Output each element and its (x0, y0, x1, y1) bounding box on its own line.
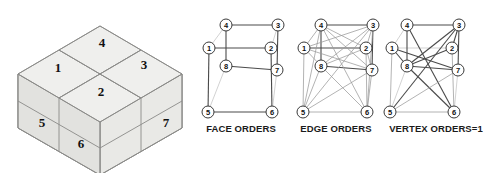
graph-node-4[interactable]: 4 (315, 19, 327, 31)
graph-edge (321, 66, 372, 70)
graph-edge (208, 48, 209, 112)
graph-edge (407, 25, 454, 112)
graph-edge (407, 48, 452, 66)
graph-node-2[interactable]: 2 (446, 42, 458, 54)
graph-node-8[interactable]: 8 (401, 60, 413, 72)
graph-node-6[interactable]: 6 (266, 106, 278, 118)
graph-edge (390, 48, 392, 112)
graph-node-6[interactable]: 6 (361, 106, 373, 118)
face-orders-graph-caption: FACE ORDERS (206, 123, 276, 134)
vertex-orders-graph-edges (390, 25, 459, 112)
graph-edge (407, 66, 454, 112)
node-label: 8 (224, 62, 228, 71)
node-label: 3 (276, 21, 280, 30)
block-label-5: 5 (39, 115, 46, 130)
graph-node-7[interactable]: 7 (366, 64, 378, 76)
graph-node-2[interactable]: 2 (265, 42, 277, 54)
vertex-orders-graph: 12345678VERTEX ORDERS=1 (384, 19, 483, 134)
node-label: 7 (275, 66, 279, 75)
node-label: 8 (319, 62, 323, 71)
node-label: 5 (206, 108, 210, 117)
graph-edge (208, 66, 226, 112)
block-label-4: 4 (99, 35, 106, 50)
graph-node-1[interactable]: 1 (386, 42, 398, 54)
node-label: 6 (270, 108, 274, 117)
graph-node-2[interactable]: 2 (360, 42, 372, 54)
face-orders-graph: 12345678FACE ORDERS (202, 19, 284, 134)
block-label-2: 2 (98, 84, 105, 99)
graph-edge (271, 48, 272, 112)
node-label: 8 (405, 62, 409, 71)
graph-edge (303, 48, 304, 112)
graph-edge (452, 48, 454, 112)
graph-edge (303, 70, 372, 112)
graph-edge (321, 48, 366, 66)
node-label: 2 (364, 44, 368, 53)
vertex-orders-graph-caption: VERTEX ORDERS=1 (389, 123, 483, 134)
face-orders-graph-edges (208, 25, 278, 112)
graph-node-8[interactable]: 8 (315, 60, 327, 72)
node-label: 1 (302, 44, 306, 53)
node-label: 7 (456, 66, 460, 75)
graph-edge (390, 25, 459, 112)
graph-node-4[interactable]: 4 (220, 19, 232, 31)
graph-edge (366, 48, 367, 112)
node-label: 5 (388, 108, 392, 117)
graph-node-6[interactable]: 6 (448, 106, 460, 118)
graph-node-3[interactable]: 3 (367, 19, 379, 31)
graph-node-4[interactable]: 4 (401, 19, 413, 31)
graph-node-1[interactable]: 1 (203, 42, 215, 54)
graph-node-5[interactable]: 5 (297, 106, 309, 118)
node-label: 2 (450, 44, 454, 53)
graph-node-5[interactable]: 5 (202, 106, 214, 118)
node-label: 2 (269, 44, 273, 53)
graph-edge (303, 25, 373, 112)
graph-node-1[interactable]: 1 (298, 42, 310, 54)
node-label: 5 (301, 108, 305, 117)
graph-node-3[interactable]: 3 (453, 19, 465, 31)
edge-orders-graph: 12345678EDGE ORDERS (297, 19, 379, 134)
graph-node-8[interactable]: 8 (220, 60, 232, 72)
node-label: 3 (371, 21, 375, 30)
graph-edge (321, 25, 367, 112)
edge-orders-graph-edges (303, 25, 373, 112)
node-label: 1 (207, 44, 211, 53)
graph-edge (321, 66, 367, 112)
block-label-7: 7 (163, 115, 170, 130)
graph-edge (390, 66, 407, 112)
node-label: 7 (370, 66, 374, 75)
isometric-block: 1 2 3 4 5 6 7 (18, 26, 182, 173)
graph-edge (303, 66, 321, 112)
block-label-3: 3 (141, 57, 148, 72)
node-label: 6 (365, 108, 369, 117)
graph-edge (226, 66, 277, 70)
block-label-1: 1 (55, 60, 62, 75)
node-label: 1 (390, 44, 394, 53)
node-label: 3 (457, 21, 461, 30)
graph-node-7[interactable]: 7 (271, 64, 283, 76)
graph-node-7[interactable]: 7 (452, 64, 464, 76)
edge-orders-graph-caption: EDGE ORDERS (300, 123, 371, 134)
graphs-layer: 12345678FACE ORDERS12345678EDGE ORDERS12… (202, 19, 483, 134)
technical-figure: 1 2 3 4 5 6 7 12345678FACE ORDERS1234567… (0, 0, 492, 173)
graph-node-5[interactable]: 5 (384, 106, 396, 118)
node-label: 6 (452, 108, 456, 117)
block-label-6: 6 (78, 136, 85, 151)
graph-node-3[interactable]: 3 (272, 19, 284, 31)
